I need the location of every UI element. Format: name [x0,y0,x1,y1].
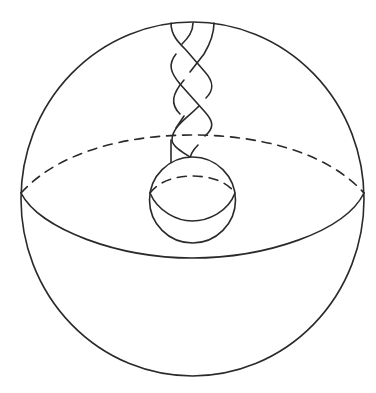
braid [171,23,214,172]
sphere-diagram [0,0,376,393]
diagram-canvas [0,0,376,393]
braid-strand-b [171,23,212,160]
inner-sphere-outline [150,157,236,243]
